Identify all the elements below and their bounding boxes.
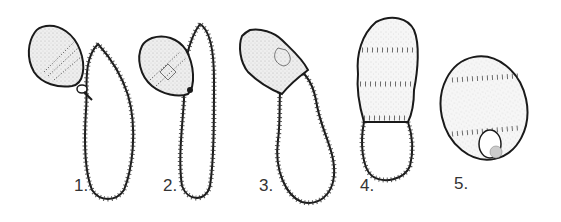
figure-1 [29, 26, 133, 199]
figure-label-1: 1. [74, 176, 88, 196]
figure-label-4: 4. [360, 176, 374, 196]
figure-label-5: 5. [454, 174, 468, 194]
figure-label-2: 2. [163, 176, 177, 196]
figure-2 [139, 24, 214, 198]
figure-3 [240, 29, 334, 202]
figure-label-3: 3. [259, 176, 273, 196]
figure-4 [357, 18, 417, 180]
figure-5 [431, 48, 537, 168]
